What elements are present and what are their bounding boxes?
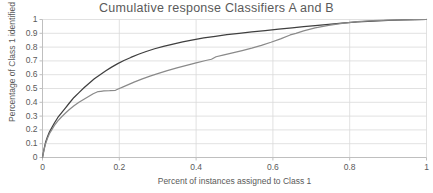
axis-lines [40, 20, 427, 161]
y-tick-label: 0.4 [14, 98, 38, 107]
x-tick-label: 0.2 [104, 163, 134, 172]
y-tick-label: 0.1 [14, 139, 38, 148]
plot-area [0, 0, 433, 193]
x-tick-label: 0.6 [258, 163, 288, 172]
y-tick-label: 0.3 [14, 112, 38, 121]
gridlines [43, 20, 427, 158]
y-tick-label: 0.7 [14, 56, 38, 65]
y-tick-label: 0.5 [14, 84, 38, 93]
chart-container: Cumulative response Classifiers A and B … [0, 0, 433, 193]
y-tick-label: 0 [14, 153, 38, 162]
y-tick-label: 0.9 [14, 29, 38, 38]
y-tick-label: 1 [14, 15, 38, 24]
x-tick-label: 0 [28, 163, 58, 172]
x-tick-label: 0.4 [181, 163, 211, 172]
y-tick-label: 0.6 [14, 70, 38, 79]
y-tick-label: 0.8 [14, 43, 38, 52]
y-tick-label: 0.2 [14, 125, 38, 134]
x-tick-label: 0.8 [335, 163, 365, 172]
x-tick-label: 1 [412, 163, 433, 172]
